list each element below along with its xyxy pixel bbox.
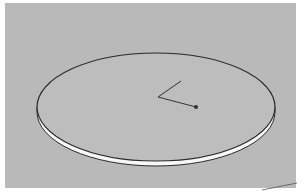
cursor-point-icon — [194, 105, 198, 109]
ground-edge-line — [262, 183, 297, 190]
disc-model[interactable] — [37, 53, 275, 166]
disc-top-face[interactable] — [37, 53, 275, 161]
scene-canvas[interactable] — [0, 0, 302, 191]
